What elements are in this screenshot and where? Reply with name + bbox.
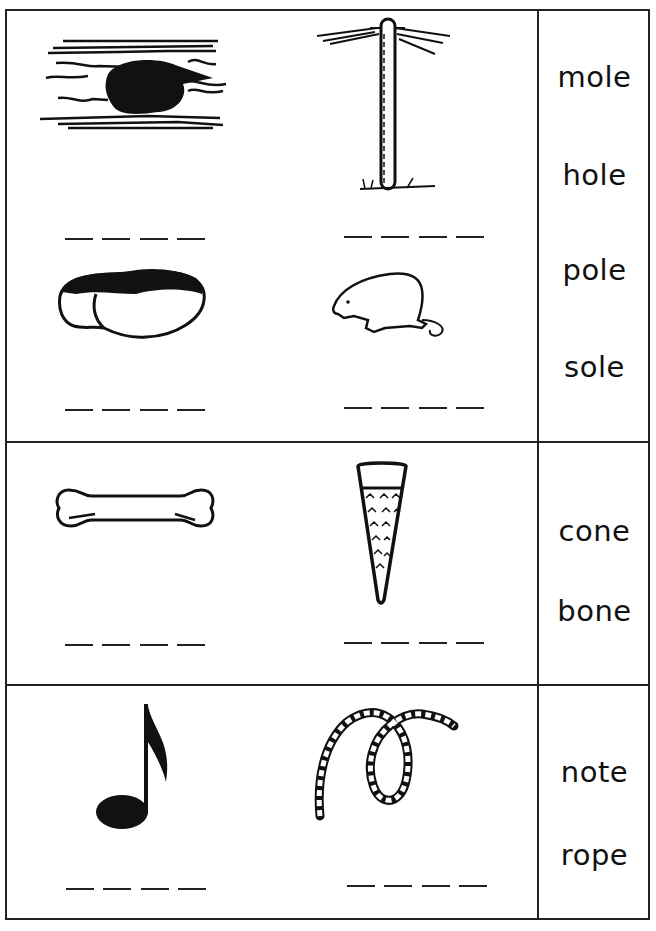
mole-icon (330, 270, 450, 348)
answer-blank-pole[interactable] (344, 236, 484, 238)
answer-blank-mole[interactable] (344, 407, 484, 409)
answer-blank-bone[interactable] (65, 644, 205, 646)
word-bank-cone: cone (539, 514, 650, 548)
word-bank-pole: pole (539, 253, 650, 287)
answer-blank-cone[interactable] (344, 642, 484, 644)
answer-blank-sole[interactable] (65, 409, 205, 411)
answer-blank-hole[interactable] (65, 238, 205, 240)
pole-icon (315, 14, 455, 194)
word-bank-hole: hole (539, 158, 650, 192)
hole-icon (38, 36, 228, 132)
rope-icon (312, 704, 462, 824)
sole-icon (56, 264, 208, 342)
word-bank-note: note (539, 755, 650, 789)
cone-icon (354, 460, 410, 606)
word-bank-mole: mole (539, 60, 650, 94)
music-note-icon (96, 702, 172, 832)
answer-blank-note[interactable] (66, 888, 206, 890)
word-bank-bone: bone (539, 594, 650, 628)
word-bank-rope: rope (539, 838, 650, 872)
word-bank-sole: sole (539, 350, 650, 384)
answer-blank-rope[interactable] (347, 885, 487, 887)
section-divider-1 (5, 441, 650, 443)
bone-icon (55, 486, 217, 530)
section-divider-2 (5, 684, 650, 686)
